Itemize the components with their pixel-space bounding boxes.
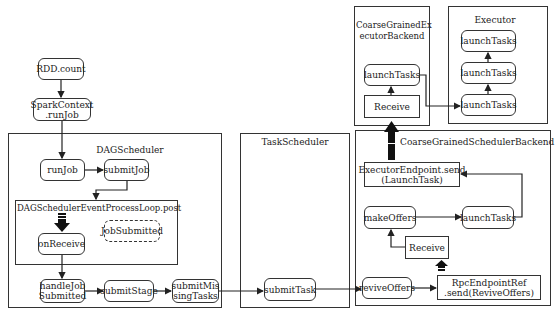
- edge-launchtasks-to-executorendpoint: [461, 174, 522, 217]
- edge-backend-to-executor: [420, 75, 460, 106]
- edge-submitjob-to-eventloop: [96, 181, 127, 199]
- edge-receive-to-makeoffers: [391, 230, 405, 247]
- edges-layer: [0, 0, 555, 319]
- thick-arrows: [54, 121, 448, 271]
